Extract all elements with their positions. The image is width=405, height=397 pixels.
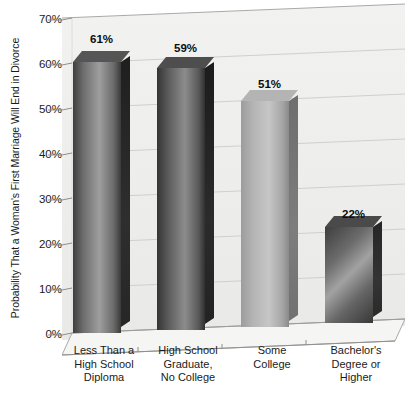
y-tick-label: 10% <box>18 284 62 295</box>
y-tick-label: 40% <box>18 149 62 160</box>
bar-value-label: 59% <box>157 42 214 54</box>
bar-value-label: 61% <box>73 33 130 45</box>
x-label-line: Graduate, <box>146 358 230 372</box>
bar-value-label: 22% <box>325 208 382 220</box>
bar-front-face <box>241 101 289 327</box>
bar-side-face <box>121 56 130 327</box>
x-label-some-college: Some College <box>230 344 314 371</box>
x-label-line: Degree or <box>314 358 398 372</box>
y-tick-label: 0% <box>18 329 62 340</box>
bar-high-school-graduate <box>157 68 205 330</box>
y-axis-tick-labels: 70% 60% 50% 40% 30% 20% 10% 0% <box>0 0 62 397</box>
x-label-line: Higher <box>314 371 398 385</box>
x-label-line: No College <box>146 371 230 385</box>
y-tick-label: 20% <box>18 239 62 250</box>
bar-side-face <box>373 221 382 317</box>
bar-bachelors-degree <box>325 227 373 323</box>
y-tick-label: 30% <box>18 194 62 205</box>
x-label-high-school-graduate: High School Graduate, No College <box>146 344 230 385</box>
bar-top-face <box>73 51 130 62</box>
y-tick-label: 70% <box>18 14 62 25</box>
bar-front-face <box>325 227 373 323</box>
x-label-less-than-high-school: Less Than a High School Diploma <box>62 344 146 385</box>
x-label-line: Diploma <box>62 371 146 385</box>
x-axis-category-labels: Less Than a High School Diploma High Sch… <box>62 344 405 397</box>
divorce-probability-bar-chart: Probability That a Woman's First Marriag… <box>0 0 405 397</box>
plot-area: 61% 59% 51% 22% <box>62 0 405 360</box>
bar-side-face <box>205 62 214 324</box>
x-label-line: Bachelor's <box>314 344 398 358</box>
x-label-line: Less Than a <box>62 344 146 358</box>
bar-side-face <box>289 95 298 321</box>
x-label-line: High School <box>146 344 230 358</box>
bar-some-college <box>241 101 289 327</box>
bar-top-face <box>157 57 214 68</box>
bar-front-face <box>73 62 121 333</box>
x-label-line: High School <box>62 358 146 372</box>
bar-less-than-high-school <box>73 62 121 333</box>
y-tick-label: 60% <box>18 59 62 70</box>
bar-front-face <box>157 68 205 330</box>
bar-value-label: 51% <box>241 78 298 90</box>
x-label-bachelors-degree: Bachelor's Degree or Higher <box>314 344 398 385</box>
bar-top-face <box>241 90 298 101</box>
x-label-line: College <box>230 358 314 372</box>
x-label-line: Some <box>230 344 314 358</box>
y-tick-label: 50% <box>18 104 62 115</box>
